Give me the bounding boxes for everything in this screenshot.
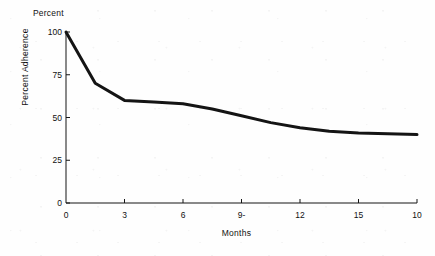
plot-area (0, 0, 435, 256)
tick-marks (66, 32, 417, 203)
chart-figure: Percent Percent Adherence Months 0255075… (0, 0, 435, 256)
data-series-group (66, 32, 417, 135)
series-line (66, 32, 417, 135)
